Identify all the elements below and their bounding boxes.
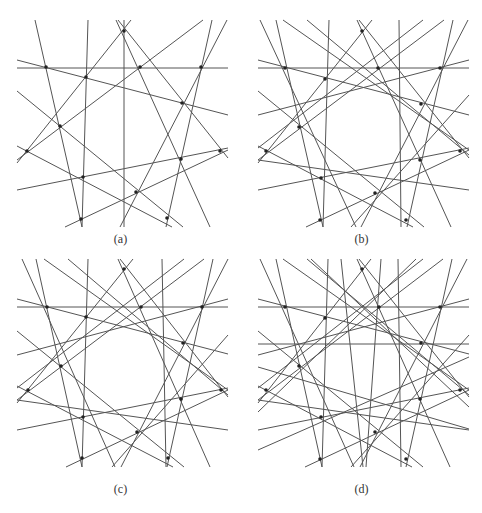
intersection-dot	[283, 66, 287, 70]
intersection-dot	[419, 102, 423, 106]
intersection-dot	[165, 216, 169, 220]
line	[260, 259, 354, 467]
intersection-dot	[264, 149, 268, 153]
line	[307, 20, 469, 155]
intersection-dot	[376, 66, 380, 70]
line	[118, 20, 228, 158]
intersection-dot	[318, 218, 322, 222]
intersection-dot	[84, 315, 88, 319]
intersection-dot	[79, 217, 83, 221]
intersection-dot	[26, 388, 30, 392]
line	[121, 259, 228, 467]
intersection-dot	[179, 157, 183, 161]
line-arrangement-c	[0, 247, 241, 477]
line	[112, 335, 228, 467]
intersection-dot	[166, 456, 170, 460]
intersection-dot	[59, 364, 63, 368]
line	[258, 357, 469, 450]
intersection-dot	[360, 267, 364, 271]
line	[35, 20, 82, 227]
line	[258, 148, 469, 190]
line	[258, 386, 412, 467]
line	[162, 259, 166, 467]
caption-b: (b)	[241, 232, 482, 247]
line	[17, 20, 203, 160]
line	[17, 148, 228, 190]
line	[359, 259, 469, 397]
line	[68, 259, 228, 395]
intersection-dot	[200, 305, 204, 309]
caption-a: (a)	[0, 232, 241, 247]
intersection-dot	[458, 149, 462, 153]
intersection-dot	[218, 149, 222, 153]
intersection-dot	[81, 415, 85, 419]
line	[398, 259, 401, 467]
line	[406, 259, 452, 467]
line	[351, 95, 469, 227]
intersection-dot	[180, 101, 184, 105]
intersection-dot	[283, 305, 287, 309]
caption-d: (d)	[241, 482, 482, 497]
line	[307, 259, 469, 395]
line	[276, 259, 322, 467]
intersection-dot	[84, 75, 88, 79]
intersection-dot	[44, 65, 48, 69]
panel-a: (a)	[0, 0, 241, 250]
intersection-dot	[404, 218, 408, 222]
line	[82, 20, 88, 227]
intersection-dot	[438, 66, 442, 70]
intersection-dot	[122, 267, 126, 271]
line	[258, 259, 423, 388]
intersection-dot	[360, 29, 364, 33]
intersection-dot	[297, 364, 301, 368]
panel-d: (d)	[241, 247, 482, 497]
line-arrangement-b	[241, 0, 482, 230]
intersection-dot	[323, 77, 327, 81]
panel-b: (b)	[241, 0, 482, 250]
line	[66, 390, 228, 467]
line	[258, 388, 469, 430]
line	[22, 259, 115, 467]
intersection-dot	[373, 191, 377, 195]
intersection-dot	[404, 457, 408, 461]
intersection-dot	[297, 125, 301, 129]
intersection-dot	[323, 316, 327, 320]
intersection-dot	[138, 65, 142, 69]
intersection-dot	[458, 388, 462, 392]
line-arrangement-a	[0, 0, 241, 230]
line	[17, 146, 172, 227]
line	[166, 20, 212, 227]
intersection-dot	[179, 397, 183, 401]
line	[306, 150, 469, 227]
intersection-dot	[318, 457, 322, 461]
line	[258, 20, 444, 160]
intersection-dot	[377, 305, 381, 309]
intersection-dot	[319, 415, 323, 419]
intersection-dot	[199, 65, 203, 69]
line	[276, 20, 323, 227]
intersection-dot	[418, 397, 422, 401]
intersection-dot	[80, 456, 84, 460]
intersection-dot	[122, 29, 126, 33]
intersection-dot	[264, 388, 268, 392]
intersection-dot	[373, 430, 377, 434]
intersection-dot	[438, 305, 442, 309]
intersection-dot	[45, 305, 49, 309]
line	[258, 146, 413, 227]
intersection-dot	[419, 341, 423, 345]
line	[260, 20, 356, 227]
line	[361, 20, 468, 227]
intersection-dot	[181, 341, 185, 345]
line	[407, 20, 453, 227]
caption-c: (c)	[0, 482, 241, 497]
line	[120, 259, 228, 397]
line	[17, 388, 228, 430]
line	[311, 259, 469, 407]
panel-c: (c)	[0, 247, 241, 497]
line	[17, 259, 184, 388]
intersection-dot	[135, 430, 139, 434]
line	[36, 259, 82, 467]
line	[359, 20, 469, 158]
line	[17, 259, 204, 400]
line	[258, 20, 372, 163]
